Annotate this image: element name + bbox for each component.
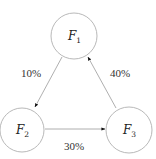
node-f1: F1 xyxy=(51,13,97,59)
arrow-f1-f2 xyxy=(35,57,62,107)
edge-label-f3-f1: 40% xyxy=(110,67,130,79)
edge-f2-to-f3: 30% xyxy=(45,129,105,152)
arrow-f3-f1 xyxy=(88,57,116,108)
edge-f1-to-f2: 10% xyxy=(21,57,62,107)
edge-label-f2-f3: 30% xyxy=(64,140,84,152)
edge-f3-to-f1: 40% xyxy=(88,57,130,108)
edge-label-f1-f2: 10% xyxy=(21,67,41,79)
node-f3: F3 xyxy=(106,107,152,153)
node-f2: F2 xyxy=(0,108,44,152)
flow-diagram: 10% 30% 40% F1 F2 F3 xyxy=(0,0,156,159)
